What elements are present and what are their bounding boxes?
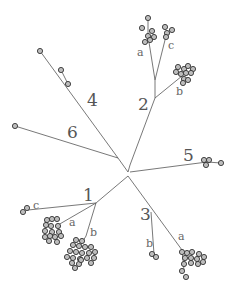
clade-label-1: 1	[83, 187, 94, 204]
clade-label-4: 4	[87, 92, 98, 109]
subclade-label-1b: b	[90, 227, 97, 238]
subclade-label-1a: a	[69, 217, 76, 228]
clade-label-3: 3	[140, 206, 151, 223]
subclade-label-2b: b	[176, 86, 183, 97]
subclade-label-1c: c	[33, 200, 39, 211]
subclade-label-3a: a	[178, 231, 185, 242]
subclade-label-2c: c	[168, 40, 174, 51]
subclade-label-2a: a	[137, 47, 144, 58]
clade-label-2: 2	[138, 96, 149, 113]
clade-label-6: 6	[67, 124, 78, 141]
phylogenetic-tree	[0, 0, 237, 288]
clade-label-5: 5	[183, 147, 194, 164]
subclade-label-3b: b	[146, 238, 153, 249]
